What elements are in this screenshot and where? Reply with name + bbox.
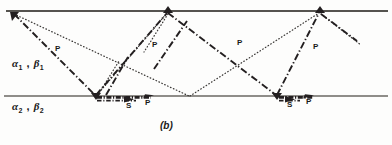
- seismic-raypath-figure: P P P P S P S P α1 , β1 α2 , β2 (b): [0, 0, 392, 145]
- raypath-canvas: [0, 0, 392, 145]
- alpha-2-subscript: 2: [19, 107, 23, 114]
- surface-vertex-mid-icon: [163, 6, 173, 13]
- phase-label-s-right: S: [287, 100, 292, 109]
- alpha-2-glyph: α: [12, 100, 19, 112]
- ray-label-p-1: P: [55, 44, 60, 53]
- dashdot-ray-group: [14, 13, 357, 95]
- p-ray-upgoing-left: [96, 13, 167, 95]
- phase-label-p-right: P: [306, 97, 311, 106]
- dotted-ray-up-right: [190, 13, 319, 96]
- beta-2-subscript: 2: [40, 107, 44, 114]
- ray-label-p-3: P: [237, 38, 242, 47]
- alpha-1-glyph: α: [12, 57, 19, 69]
- surface-vertex-right-icon: [315, 6, 325, 13]
- lower-layer-velocity-label: α2 , β2: [12, 100, 44, 114]
- ray-label-p-4: P: [313, 42, 318, 51]
- ray-label-p-2: P: [152, 40, 157, 49]
- figure-caption: (b): [160, 120, 173, 131]
- beta-1-subscript: 1: [40, 64, 44, 71]
- phase-label-s-left: S: [126, 101, 131, 110]
- p-ray-upgoing-right: [277, 13, 319, 95]
- p-ray-downgoing-left: [14, 14, 95, 95]
- alpha-1-subscript: 1: [19, 64, 23, 71]
- upper-layer-velocity-label: α1 , β1: [12, 57, 44, 71]
- phase-label-p-left: P: [145, 98, 150, 107]
- dotted-ray-group: [14, 13, 361, 96]
